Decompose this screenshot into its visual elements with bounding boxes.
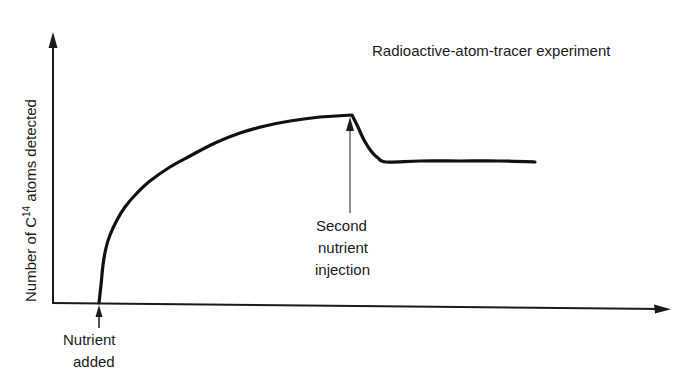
annotation-second-injection: Second nutrient injection (315, 117, 370, 278)
chart-title: Radioactive-atom-tracer experiment (372, 42, 611, 59)
annotation-label-line3: injection (315, 261, 370, 278)
annotation-label-line2: added (73, 353, 115, 370)
annotation-label-line1: Nutrient (63, 331, 116, 348)
x-axis (52, 303, 662, 309)
y-axis-arrowhead-icon (49, 32, 58, 48)
annotation-label-line1: Second (316, 217, 367, 234)
x-axis-arrowhead-icon (654, 305, 671, 314)
y-axis-label: Number of C14 atoms detected (21, 99, 39, 302)
annotation-nutrient-added: Nutrient added (63, 305, 116, 370)
tracer-chart: Radioactive-atom-tracer experiment Numbe… (0, 0, 688, 377)
annotation-label-line2: nutrient (318, 239, 369, 256)
up-arrowhead-icon (96, 305, 103, 317)
